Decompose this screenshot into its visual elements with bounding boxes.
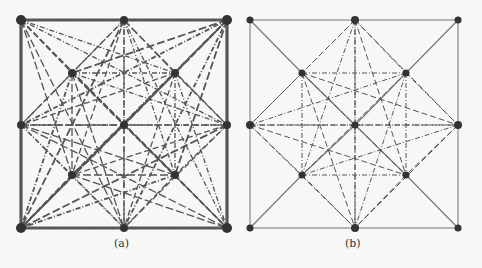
- graph-node: [17, 121, 25, 129]
- graph-edge: [406, 20, 458, 73]
- graph-edge: [21, 73, 175, 125]
- graph-node: [68, 69, 76, 77]
- graph-node: [351, 224, 359, 232]
- graph-edge: [355, 175, 406, 228]
- graph-figure: [0, 0, 482, 268]
- graph-node: [68, 171, 76, 179]
- graph-edge: [72, 125, 227, 175]
- graph-node: [299, 70, 306, 77]
- graph-node: [403, 70, 410, 77]
- graph-node: [247, 225, 254, 232]
- graph-node: [403, 172, 410, 179]
- graph-node: [246, 121, 254, 129]
- graph-edge: [250, 73, 406, 125]
- graph-edge: [175, 175, 227, 228]
- caption-b: (b): [345, 237, 361, 250]
- graph-node: [222, 223, 232, 233]
- graph-node: [120, 224, 128, 232]
- graph-edge: [175, 73, 227, 125]
- graph-node: [454, 121, 462, 129]
- graph-node: [299, 172, 306, 179]
- graph-node: [120, 16, 128, 24]
- graph-node: [16, 223, 26, 233]
- caption-a: (a): [114, 237, 129, 250]
- graph-node: [247, 17, 254, 24]
- graph-edge: [302, 125, 458, 175]
- graph-node: [352, 122, 359, 129]
- graph-node: [455, 17, 462, 24]
- graph-edge: [250, 20, 302, 73]
- graph-edge: [250, 125, 406, 175]
- graph-node: [171, 171, 179, 179]
- graph-node: [16, 15, 26, 25]
- graph-edge: [302, 175, 355, 228]
- panel-b-graph: [246, 16, 462, 232]
- graph-edge: [250, 175, 302, 228]
- graph-node: [120, 121, 128, 129]
- graph-edge: [124, 175, 175, 228]
- graph-node: [351, 16, 359, 24]
- graph-node: [222, 15, 232, 25]
- panel-a-graph: [16, 15, 232, 233]
- graph-node: [455, 225, 462, 232]
- graph-edge: [406, 175, 458, 228]
- graph-node: [171, 69, 179, 77]
- graph-node: [223, 121, 231, 129]
